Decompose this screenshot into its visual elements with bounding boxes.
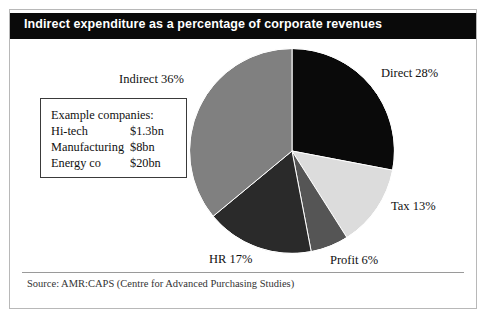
example-company-name: Energy co <box>51 155 130 171</box>
example-company-row: Energy co $20bn <box>51 155 180 171</box>
page-title: Indirect expenditure as a percentage of … <box>24 17 382 31</box>
pie-chart <box>189 48 395 254</box>
example-companies-heading: Example companies: <box>51 107 180 123</box>
title-bar: Indirect expenditure as a percentage of … <box>10 13 476 39</box>
pie-label-profit: Profit 6% <box>330 253 378 268</box>
example-company-value: $20bn <box>130 155 161 171</box>
example-companies-box: Example companies: Hi-tech $1.3bn Manufa… <box>40 98 187 178</box>
pie-slices <box>189 48 394 253</box>
example-company-row: Hi-tech $1.3bn <box>51 123 180 139</box>
example-company-name: Hi-tech <box>51 123 130 139</box>
source-note: Source: AMR:CAPS (Centre for Advanced Pu… <box>27 278 294 289</box>
example-company-name: Manufacturing <box>51 139 130 155</box>
pie-slice-direct[interactable] <box>292 49 394 171</box>
pie-svg <box>189 48 395 254</box>
example-company-row: Manufacturing $8bn <box>51 139 180 155</box>
example-company-value: $1.3bn <box>130 123 164 139</box>
pie-label-tax: Tax 13% <box>391 199 436 214</box>
example-company-value: $8bn <box>130 139 155 155</box>
pie-label-direct: Direct 28% <box>381 66 438 81</box>
pie-chart-figure: Indirect expenditure as a percentage of … <box>0 0 486 318</box>
pie-label-indirect: Indirect 36% <box>119 72 184 87</box>
pie-label-hr: HR 17% <box>209 252 252 267</box>
source-divider <box>22 272 464 273</box>
